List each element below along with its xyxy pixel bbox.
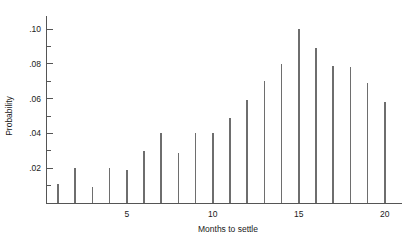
chart-axes <box>46 16 402 203</box>
y-axis-title: Probability <box>4 95 14 135</box>
x-tick-label-20: 20 <box>380 209 390 219</box>
tick-labels: .02.04.06.08.105101520 <box>29 24 390 219</box>
y-tick-label-0.04: .04 <box>29 128 41 138</box>
y-tick-label-0.1: .10 <box>29 24 41 34</box>
probability-distribution-chart: .02.04.06.08.105101520 Months to settle … <box>0 0 414 238</box>
chart-figure: .02.04.06.08.105101520 Months to settle … <box>0 0 414 238</box>
y-tick-label-0.02: .02 <box>29 163 41 173</box>
bar-series <box>58 29 385 203</box>
y-tick-label-0.06: .06 <box>29 94 41 104</box>
y-tick-label-0.08: .08 <box>29 59 41 69</box>
x-tick-label-5: 5 <box>124 209 129 219</box>
x-axis-title: Months to settle <box>198 224 258 234</box>
x-tick-label-15: 15 <box>294 209 304 219</box>
x-tick-label-10: 10 <box>208 209 218 219</box>
